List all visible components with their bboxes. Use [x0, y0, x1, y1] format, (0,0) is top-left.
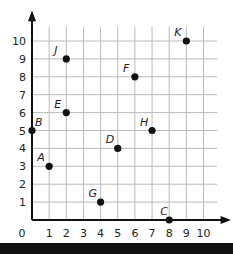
y-tick-label: 2: [19, 178, 26, 191]
point-label: K: [174, 26, 182, 39]
grid-lines: [32, 27, 217, 220]
point-label: C: [160, 205, 168, 218]
point-label: H: [140, 116, 148, 129]
y-tick-label: 7: [19, 89, 26, 102]
point-b: B: [28, 116, 42, 135]
x-tick-label: 7: [149, 227, 156, 240]
x-tick-label: 2: [63, 227, 70, 240]
x-tick-label: 0: [19, 227, 26, 240]
point-label: F: [123, 62, 130, 75]
point-k: K: [174, 26, 190, 45]
y-tick-label: 1: [19, 196, 26, 209]
point-j: J: [52, 44, 70, 63]
y-tick-label: 8: [19, 71, 26, 84]
x-tick-label: 3: [80, 227, 87, 240]
point-h: H: [140, 116, 156, 135]
point-label: G: [89, 187, 98, 200]
point-label: B: [35, 116, 43, 129]
y-tick-label: 9: [19, 53, 26, 66]
x-tick-label: 9: [183, 227, 190, 240]
point-f: F: [123, 62, 139, 81]
x-tick-label: 10: [197, 227, 211, 240]
y-tick-label: 10: [12, 35, 26, 48]
point-label: E: [54, 98, 61, 111]
point-label: D: [106, 133, 114, 146]
y-tick-label: 5: [19, 125, 26, 138]
x-tick-label: 5: [114, 227, 121, 240]
x-axis-arrow-icon: [221, 216, 231, 224]
point-e: E: [54, 98, 70, 117]
bottom-dark-band: [0, 243, 233, 254]
x-tick-label: 6: [131, 227, 138, 240]
point-label: J: [52, 44, 57, 57]
point-g: G: [89, 187, 105, 206]
y-axis-arrow-icon: [28, 11, 36, 22]
point-d: D: [106, 133, 122, 152]
x-tick-label: 1: [46, 227, 53, 240]
point-a: A: [36, 151, 53, 170]
point-label: A: [36, 151, 45, 164]
y-tick-label: 3: [19, 160, 26, 173]
y-tick-label: 4: [19, 142, 26, 155]
coordinate-grid-chart: 01234567891012345678910ABCDEFGHJK: [0, 0, 233, 254]
y-tick-label: 6: [19, 107, 26, 120]
x-tick-label: 4: [97, 227, 104, 240]
x-tick-label: 8: [166, 227, 173, 240]
